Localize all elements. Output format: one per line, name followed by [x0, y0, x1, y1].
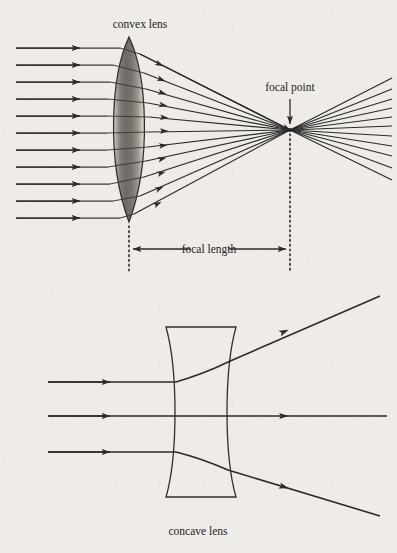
- concave-lens-body: [166, 327, 236, 497]
- optics-diagram: convex lens focal point focal length: [0, 0, 397, 553]
- focal-point-marker: [288, 128, 292, 132]
- focal-length-label: focal length: [182, 243, 237, 256]
- concave-lens-label: concave lens: [168, 525, 228, 537]
- convex-lens-label: convex lens: [113, 18, 168, 30]
- figure-page: convex lens focal point focal length: [0, 0, 397, 553]
- convex-incoming-arrowheads: [16, 48, 80, 218]
- convex-lens-panel: convex lens focal point focal length: [16, 18, 392, 272]
- concave-incoming-rays: [48, 382, 181, 452]
- focal-point-label: focal point: [265, 81, 315, 94]
- concave-lens-panel: concave lens: [48, 296, 387, 537]
- concave-refracted-rays: [176, 296, 387, 516]
- concave-outgoing-arrowheads: [278, 327, 289, 491]
- convex-lens-body: [114, 37, 145, 222]
- convex-diverging-rays: [290, 78, 392, 180]
